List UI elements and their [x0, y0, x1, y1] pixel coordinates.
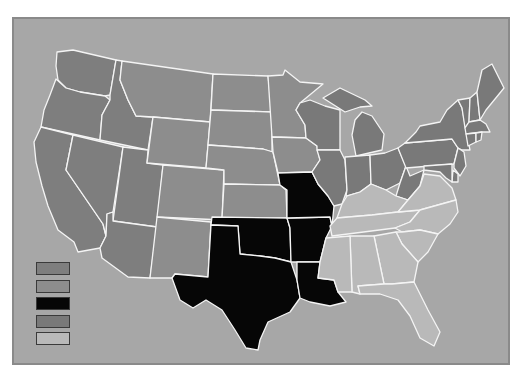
- us-map: [0, 0, 524, 380]
- legend-swatch-5: [36, 332, 70, 345]
- legend-swatch-3: [36, 297, 70, 310]
- state-ND[interactable]: [211, 74, 272, 112]
- state-FL[interactable]: [358, 282, 440, 346]
- state-CO[interactable]: [157, 165, 224, 220]
- legend-swatch-1: [36, 262, 70, 275]
- legend-swatch-2: [36, 280, 70, 293]
- state-CT[interactable]: [466, 133, 476, 146]
- state-ME[interactable]: [477, 64, 504, 120]
- legend: [36, 262, 70, 350]
- state-NM[interactable]: [150, 217, 211, 278]
- state-RI[interactable]: [476, 132, 482, 142]
- state-MT[interactable]: [120, 61, 213, 122]
- state-WY[interactable]: [147, 117, 210, 168]
- state-KS[interactable]: [222, 184, 287, 218]
- state-MA[interactable]: [465, 120, 490, 134]
- legend-swatch-4: [36, 315, 70, 328]
